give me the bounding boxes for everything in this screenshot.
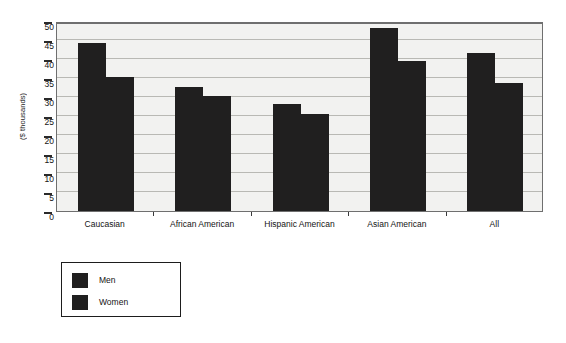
bar [370, 28, 398, 211]
plot-inner [57, 24, 542, 211]
bar [301, 114, 329, 211]
bar-group [467, 24, 523, 211]
y-axis-tick-labels: 05101520253035404550 [28, 22, 54, 212]
x-tick-mark [153, 212, 154, 216]
bar [398, 61, 426, 211]
x-tick-label: Asian American [367, 219, 426, 229]
legend-swatch [72, 295, 88, 310]
bar [175, 87, 203, 211]
legend-swatch [72, 273, 88, 288]
x-tick-label: Caucasian [85, 219, 125, 229]
chart-legend: MenWomen [61, 262, 181, 317]
bar [78, 43, 106, 211]
legend-item: Men [72, 272, 116, 288]
bar-group [175, 24, 231, 211]
bar-group [370, 24, 426, 211]
legend-label: Women [99, 297, 128, 307]
x-tick-mark [251, 212, 252, 216]
plot-area [56, 22, 543, 212]
bar [273, 104, 301, 211]
bar [467, 53, 495, 211]
bar-group [78, 24, 134, 211]
x-tick-label: All [490, 219, 499, 229]
bar [203, 96, 231, 211]
x-tick-label: African American [170, 219, 234, 229]
bar-chart-figure: ($ thousands) 05101520253035404550 Cauca… [0, 0, 566, 343]
x-axis-tick-labels: CaucasianAfrican AmericanHispanic Americ… [56, 219, 543, 235]
x-axis-tick-marks [56, 212, 543, 217]
x-tick-mark [446, 212, 447, 216]
legend-item: Women [72, 294, 128, 310]
bar [106, 77, 134, 211]
bar [495, 83, 523, 211]
x-tick-label: Hispanic American [264, 219, 334, 229]
bar-group [273, 24, 329, 211]
x-tick-mark [348, 212, 349, 216]
legend-label: Men [99, 275, 116, 285]
